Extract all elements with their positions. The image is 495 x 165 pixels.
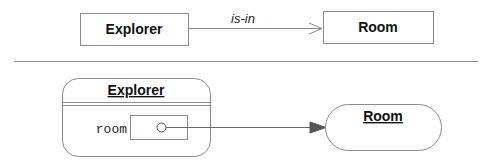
diagram-canvas: Explorer is-in Room Explorer room Room bbox=[0, 0, 495, 165]
bottom-diagram: Explorer room Room bbox=[63, 79, 442, 157]
top-diagram: Explorer is-in Room bbox=[81, 11, 434, 46]
room-object-title: Room bbox=[363, 108, 403, 124]
explorer-object-title: Explorer bbox=[108, 82, 165, 98]
room-field-name: room bbox=[96, 122, 127, 137]
room-class-label: Room bbox=[358, 19, 398, 35]
filled-arrowhead-icon bbox=[310, 122, 326, 133]
reference-origin-icon bbox=[157, 123, 166, 132]
explorer-class-label: Explorer bbox=[106, 21, 163, 37]
is-in-edge-label: is-in bbox=[231, 11, 255, 26]
